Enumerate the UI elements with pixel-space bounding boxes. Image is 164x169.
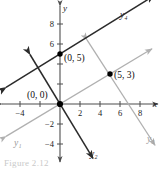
coordinate-plane-plot: −4246886−2−4 (0, 5)(5, 3)(0, 0) y₁y₂y₃y₄… (0, 0, 164, 169)
y-tick-label: 6 (50, 39, 54, 49)
y-axis-label: y (62, 3, 67, 13)
point-5-3 (107, 71, 112, 76)
point-origin (57, 101, 63, 107)
y-tick-label: −4 (45, 139, 55, 149)
axes (2, 6, 158, 162)
line-y2-label: y₂ (89, 149, 98, 159)
line-y3-label: y₃ (146, 134, 155, 144)
x-tick-label: −4 (15, 108, 25, 118)
x-tick-label: 8 (138, 108, 142, 118)
line-labels: y₁y₂y₃y₄ (13, 10, 155, 159)
axis-tick-labels: −4246886−2−4 (15, 19, 142, 149)
figure-caption: Figure 2.12 (4, 158, 49, 168)
point-0-5 (57, 51, 62, 56)
x-tick-label: 4 (98, 108, 103, 118)
point-5-3-label: (5, 3) (114, 70, 135, 81)
y-tick-label: 8 (50, 19, 54, 29)
point-origin-label: (0, 0) (27, 90, 48, 101)
line-y1-label: y₁ (13, 138, 22, 148)
x-tick-label: 6 (118, 108, 122, 118)
line-y3 (87, 40, 155, 145)
line-y4-label: y₄ (119, 10, 128, 20)
graph-figure: −4246886−2−4 (0, 5)(5, 3)(0, 0) y₁y₂y₃y₄… (0, 0, 164, 169)
x-axis-label: x (152, 99, 157, 109)
x-tick-label: 2 (78, 108, 82, 118)
point-0-5-label: (0, 5) (64, 53, 85, 64)
y-tick-label: −2 (45, 119, 54, 129)
